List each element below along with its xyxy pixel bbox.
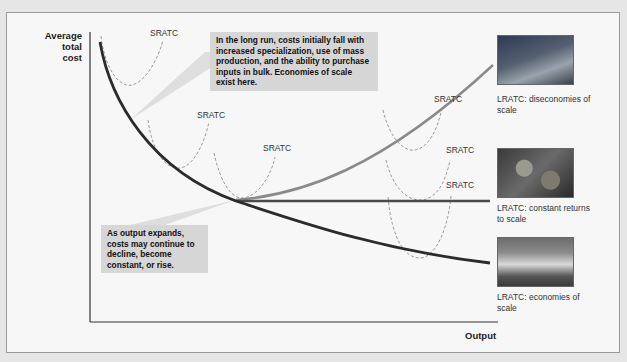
caption-constant: LRATC: constant returns to scale (497, 203, 597, 224)
sratc-label: SRATC (446, 145, 474, 155)
callout-pointer-bottom (130, 200, 235, 225)
callout-economies-of-scale: In the long run, costs initially fall wi… (210, 32, 378, 91)
caption-economies: LRATC: economies of scale (497, 292, 597, 313)
sratc-label: SRATC (434, 94, 462, 104)
callout-output-expands: As output expands, costs may continue to… (101, 225, 208, 273)
sratc-label: SRATC (150, 28, 178, 38)
sratc-label: SRATC (446, 180, 474, 190)
sratc-label: SRATC (263, 143, 291, 153)
caption-diseconomies: LRATC: diseconomies of scale (497, 94, 597, 115)
food-plates-photo (497, 148, 574, 198)
house-photo (497, 237, 574, 287)
hospital-building-photo (497, 35, 574, 85)
sratc-label: SRATC (197, 110, 225, 120)
